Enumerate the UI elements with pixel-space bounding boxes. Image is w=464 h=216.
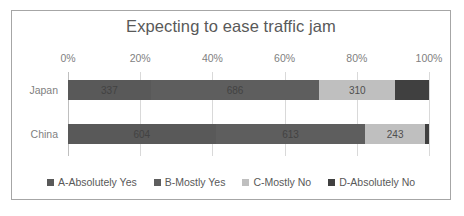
y-axis-category: China — [31, 128, 58, 140]
legend-label: A-Absolutely Yes — [58, 176, 137, 188]
bar-segment: 604 — [68, 124, 216, 144]
legend-swatch-icon — [47, 179, 54, 186]
y-axis-category: Japan — [29, 84, 58, 96]
legend-item[interactable]: D-Absolutely No — [328, 176, 415, 188]
y-axis-category-labels: JapanChina — [12, 72, 64, 156]
legend-label: C-Mostly No — [253, 176, 311, 188]
bar-segment-label: 686 — [227, 85, 244, 96]
bar-segment: 613 — [216, 124, 366, 144]
bar-segment-label: 337 — [101, 85, 118, 96]
x-axis-tick: 40% — [202, 52, 223, 64]
bar-row: 337686310137 — [68, 80, 429, 100]
bar-segment: 137 — [395, 80, 429, 100]
bar-segment-label: 243 — [387, 129, 404, 140]
bar-segment-label: 310 — [349, 85, 366, 96]
plot-area: 337686310137 604613243 — [68, 72, 429, 156]
x-axis-tick: 60% — [274, 52, 295, 64]
chart-legend: A-Absolutely YesB-Mostly YesC-Mostly NoD… — [12, 176, 450, 188]
legend-swatch-icon — [154, 179, 161, 186]
bar-segment: 337 — [68, 80, 151, 100]
legend-item[interactable]: B-Mostly Yes — [154, 176, 226, 188]
bar-segment: 686 — [151, 80, 319, 100]
legend-swatch-icon — [242, 179, 249, 186]
bar-segment-label: 613 — [282, 129, 299, 140]
legend-label: B-Mostly Yes — [165, 176, 226, 188]
bar-segment: 243 — [365, 124, 424, 144]
bar-row: 604613243 — [68, 124, 429, 144]
legend-swatch-icon — [328, 179, 335, 186]
x-axis-tick: 100% — [416, 52, 443, 64]
gridline — [429, 72, 430, 156]
legend-item[interactable]: A-Absolutely Yes — [47, 176, 137, 188]
legend-item[interactable]: C-Mostly No — [242, 176, 311, 188]
bar-segment: 310 — [319, 80, 395, 100]
bar-segment-label: 604 — [133, 129, 150, 140]
bar-segment — [425, 124, 429, 144]
chart-title: Expecting to ease traffic jam — [12, 17, 450, 36]
x-axis-tick: 0% — [60, 52, 75, 64]
x-axis-tick-labels: 0%20%40%60%80%100% — [68, 52, 429, 68]
legend-label: D-Absolutely No — [339, 176, 415, 188]
bar-segment-label: 137 — [404, 85, 421, 96]
x-axis-tick: 80% — [346, 52, 367, 64]
chart-container: Expecting to ease traffic jam 0%20%40%60… — [11, 10, 451, 200]
x-axis-tick: 20% — [130, 52, 151, 64]
